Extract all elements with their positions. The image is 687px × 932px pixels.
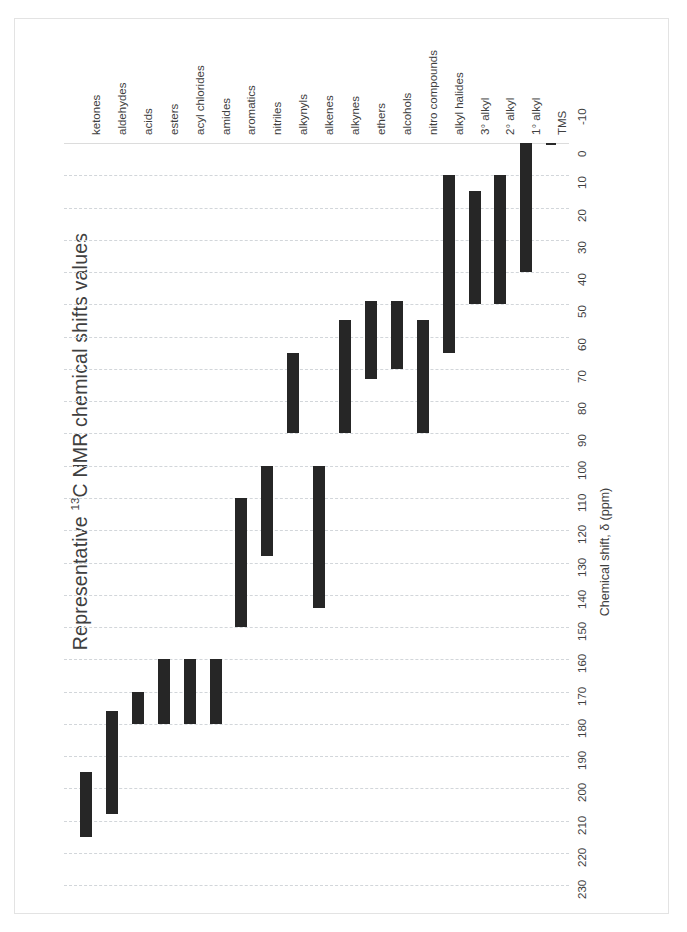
y-tick--10: -10	[576, 108, 588, 125]
bar-nitriles	[261, 466, 273, 556]
category-label-alkynes: alkynes	[349, 96, 361, 135]
bar-amides	[210, 659, 222, 724]
y-tick-210: 210	[576, 815, 588, 834]
y-tick-80: 80	[576, 402, 588, 415]
tms-marker	[546, 143, 556, 145]
bar-alkyl-halides	[443, 175, 455, 352]
bar-alcohols	[391, 301, 403, 369]
y-tick-160: 160	[576, 654, 588, 673]
category-label-alkyl-halides: alkyl halides	[453, 72, 465, 135]
gridline-90	[64, 433, 569, 434]
category-label-aldehydes: aldehydes	[116, 83, 128, 135]
category-label-2-alkyl: 2° alkyl	[504, 98, 516, 135]
category-label-alkynyls: alkynyls	[297, 94, 309, 135]
bar-nitro-compounds	[417, 320, 429, 433]
gridline-20	[64, 208, 569, 209]
gridline-200	[64, 788, 569, 789]
category-label-alkenes: alkenes	[323, 95, 335, 135]
gridline-80	[64, 401, 569, 402]
gridline-190	[64, 756, 569, 757]
gridline-150	[64, 627, 569, 628]
y-axis-title: Chemical shift, δ (ppm)	[598, 452, 612, 652]
y-tick-50: 50	[576, 306, 588, 319]
plot-area: -100102030405060708090100110120130140150…	[64, 118, 569, 893]
gridline-160	[64, 659, 569, 660]
gridline-60	[64, 337, 569, 338]
gridline-10	[64, 175, 569, 176]
bar-acids	[132, 692, 144, 724]
bar-aldehydes	[106, 711, 118, 814]
bar-acyl-chlorides	[184, 659, 196, 724]
y-tick-170: 170	[576, 686, 588, 705]
bar-alkenes	[313, 466, 325, 608]
gridline-230	[64, 885, 569, 886]
y-tick-190: 190	[576, 751, 588, 770]
y-tick-110: 110	[576, 494, 588, 512]
bar-3-alkyl	[469, 191, 481, 304]
gridline-180	[64, 724, 569, 725]
bar-1-alkyl	[520, 143, 532, 272]
y-tick-10: 10	[576, 176, 588, 189]
category-label-aromatics: aromatics	[245, 85, 257, 135]
y-tick-60: 60	[576, 338, 588, 351]
bar-2-alkyl	[494, 175, 506, 304]
y-tick-200: 200	[576, 783, 588, 802]
gridline-50	[64, 304, 569, 305]
gridline-210	[64, 821, 569, 822]
gridline-30	[64, 240, 569, 241]
gridline-220	[64, 853, 569, 854]
gridline-70	[64, 369, 569, 370]
y-tick-130: 130	[576, 557, 588, 576]
y-tick-150: 150	[576, 622, 588, 641]
bar-aromatics	[235, 498, 247, 627]
bar-ethers	[365, 301, 377, 378]
category-label-ketones: ketones	[90, 95, 102, 135]
y-tick-70: 70	[576, 370, 588, 383]
bar-esters	[158, 659, 170, 724]
y-tick-140: 140	[576, 590, 588, 609]
y-tick-120: 120	[576, 525, 588, 544]
chart-page: Representative 13C NMR chemical shifts v…	[0, 0, 687, 932]
category-label-nitriles: nitriles	[271, 102, 283, 135]
category-label-3-alkyl: 3° alkyl	[479, 98, 491, 135]
category-label-alcohols: alcohols	[401, 93, 413, 135]
category-label-acids: acids	[142, 108, 154, 135]
category-label-ethers: ethers	[375, 103, 387, 135]
y-tick-20: 20	[576, 209, 588, 222]
category-label-1-alkyl: 1° alkyl	[530, 98, 542, 135]
gridline-0	[64, 143, 569, 144]
y-tick-100: 100	[576, 461, 588, 480]
category-label-amides: amides	[220, 98, 232, 135]
bar-alkynes	[339, 320, 351, 433]
bar-alkynyls	[287, 353, 299, 434]
y-tick-220: 220	[576, 848, 588, 867]
y-tick-40: 40	[576, 273, 588, 286]
y-tick-30: 30	[576, 241, 588, 254]
y-tick-230: 230	[576, 880, 588, 899]
category-label-esters: esters	[168, 104, 180, 135]
category-label-nitro-compounds: nitro compounds	[427, 50, 439, 135]
gridline-40	[64, 272, 569, 273]
y-tick-0: 0	[576, 151, 588, 157]
category-label-acyl-chlorides: acyl chlorides	[194, 65, 206, 135]
category-label-tms: TMS	[556, 111, 568, 135]
y-tick-90: 90	[576, 435, 588, 448]
bar-ketones	[80, 772, 92, 837]
y-tick-180: 180	[576, 719, 588, 738]
